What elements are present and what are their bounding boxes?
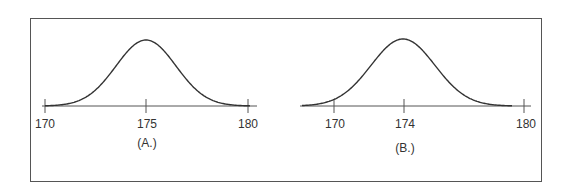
chart-b-caption: (B.) (395, 141, 414, 155)
chart-b: 170 174 180 (B.) (300, 39, 536, 155)
chart-a-tick-label-175: 175 (137, 117, 157, 131)
chart-b-curve (302, 39, 512, 106)
chart-a-caption: (A.) (137, 136, 156, 150)
chart-a-curve (45, 40, 250, 106)
charts-svg: 170 175 180 (A.) 170 174 180 (B.) (0, 0, 574, 196)
chart-a-tick-label-180: 180 (238, 117, 258, 131)
chart-a: 170 175 180 (A.) (35, 40, 258, 150)
chart-b-tick-label-180: 180 (516, 117, 536, 131)
chart-b-tick-label-174: 174 (395, 117, 415, 131)
chart-a-tick-label-170: 170 (35, 117, 55, 131)
chart-b-tick-label-170: 170 (325, 117, 345, 131)
